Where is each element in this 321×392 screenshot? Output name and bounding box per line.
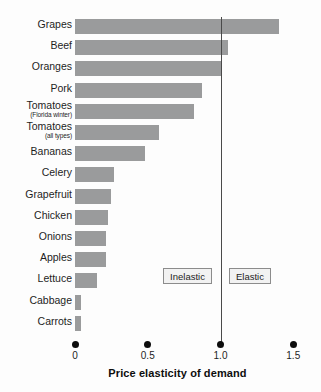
- x-axis-title: Price elasticity of demand: [0, 367, 321, 379]
- x-axis-tick-dot: [217, 341, 224, 348]
- x-axis-tick-label: 0.5: [128, 350, 168, 361]
- x-axis-tick-dot: [72, 341, 79, 348]
- plot-area: GrapesBeefOrangesPorkTomatoes(Florida wi…: [0, 0, 321, 392]
- x-axis-ticks: 00.51.01.5: [0, 0, 321, 392]
- price-elasticity-bar-chart: GrapesBeefOrangesPorkTomatoes(Florida wi…: [0, 0, 321, 392]
- x-axis-tick-label: 1.5: [273, 350, 313, 361]
- x-axis-tick-label: 1.0: [201, 350, 241, 361]
- x-axis-tick-label: 0: [55, 350, 95, 361]
- x-axis-title-text: Price elasticity of demand: [74, 367, 246, 379]
- x-axis-tick-dot: [144, 341, 151, 348]
- x-axis-tick-dot: [290, 341, 297, 348]
